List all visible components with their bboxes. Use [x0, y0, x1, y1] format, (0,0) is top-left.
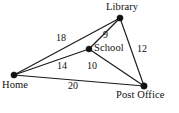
edge-weight-library-post-office: 12 — [137, 44, 147, 54]
diagram-text-layer: Library School Home Post Office 18 9 12 … — [0, 0, 179, 113]
edge-weight-school-post-office: 10 — [87, 61, 97, 71]
edge-weight-home-post-office: 20 — [68, 81, 78, 91]
node-label-library: Library — [106, 1, 138, 12]
edge-weight-home-school: 14 — [57, 61, 67, 71]
edge-weight-school-library: 9 — [103, 30, 108, 40]
edge-weight-home-library: 18 — [56, 33, 66, 43]
network-diagram: Library School Home Post Office 18 9 12 … — [0, 0, 179, 113]
node-label-post-office: Post Office — [116, 89, 164, 100]
node-label-school: School — [94, 42, 124, 53]
node-label-home: Home — [2, 79, 28, 90]
